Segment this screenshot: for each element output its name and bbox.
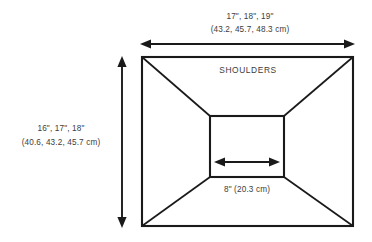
height-arrow-head-top xyxy=(117,56,126,67)
corner-diagonals xyxy=(142,57,353,226)
inner-width-arrow-head-left xyxy=(214,157,225,166)
width-dimension-imperial-label: 17", 18", 19" xyxy=(226,12,273,21)
diagonal-top-left xyxy=(142,57,210,116)
diagram-canvas: 17", 18", 19" (43.2, 45.7, 48.3 cm) 16",… xyxy=(0,0,372,242)
inner-width-arrow-head-right xyxy=(269,157,280,166)
width-arrow-head-right xyxy=(344,39,355,48)
shoulder-measurement-diagram: 17", 18", 19" (43.2, 45.7, 48.3 cm) 16",… xyxy=(0,0,372,242)
height-dimension-imperial-label: 16", 17", 18" xyxy=(37,124,84,133)
width-arrow-head-left xyxy=(140,39,151,48)
height-dimension-arrow xyxy=(117,56,126,228)
height-arrow-head-bottom xyxy=(117,217,126,228)
diagonal-bottom-left xyxy=(142,177,210,226)
inner-rectangle xyxy=(210,116,284,177)
inner-width-label: 8" (20.3 cm) xyxy=(224,185,270,194)
diagonal-top-right xyxy=(284,57,353,116)
diagonal-bottom-right xyxy=(284,177,353,226)
shoulders-label: SHOULDERS xyxy=(219,65,277,75)
inner-width-arrow xyxy=(214,157,280,166)
outer-rectangle xyxy=(142,57,353,226)
height-dimension-metric-label: (40.6, 43.2, 45.7 cm) xyxy=(22,138,101,147)
width-dimension-metric-label: (43.2, 45.7, 48.3 cm) xyxy=(211,25,290,34)
width-dimension-arrow xyxy=(140,39,355,48)
